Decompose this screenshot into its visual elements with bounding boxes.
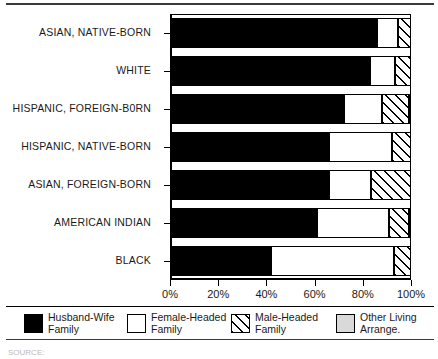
chart-legend: Husband-Wife FamilyFemale-Headed FamilyM… <box>6 306 434 340</box>
bar-segment <box>409 208 411 238</box>
y-axis-label: HISPANIC, NATIVE-BORN <box>0 140 160 152</box>
bar-segment <box>329 132 392 162</box>
bar-segment <box>317 208 389 238</box>
bar-segment <box>170 208 317 238</box>
bar-segment <box>170 246 271 276</box>
bar-segment <box>394 246 411 276</box>
bar-segment <box>389 208 409 238</box>
bar-segment <box>377 18 397 48</box>
top-rule <box>6 3 434 5</box>
bar-row <box>170 170 411 200</box>
bar-segment <box>271 246 394 276</box>
bar-segment <box>392 132 411 162</box>
y-axis-label: HISPANIC, FOREIGN-B0RN <box>0 102 160 114</box>
x-axis-tick-label: 40% <box>255 288 277 300</box>
bar-segment <box>170 132 329 162</box>
legend-item[interactable]: Husband-Wife Family <box>15 311 115 335</box>
bar-row <box>170 132 411 162</box>
bar-row <box>170 94 411 124</box>
bar-row <box>170 18 411 48</box>
legend-label: Female-Headed Family <box>151 311 226 335</box>
bar-segment <box>371 170 411 200</box>
legend-item[interactable]: Male-Headed Family <box>222 311 318 335</box>
x-axis-tick <box>218 280 219 286</box>
bar-row <box>170 208 411 238</box>
bar-segment <box>382 94 409 124</box>
x-axis-tick-label: 60% <box>304 288 326 300</box>
y-axis-label: ASIAN, FOREIGN-BORN <box>0 178 160 190</box>
bar-segment <box>170 18 377 48</box>
x-axis-tick <box>315 280 316 286</box>
x-axis-tick <box>170 280 171 286</box>
legend-swatch <box>127 314 146 333</box>
bar-segment <box>170 170 329 200</box>
x-axis-tick-label: 0% <box>162 288 178 300</box>
y-axis-label: BLACK <box>0 254 160 266</box>
y-axis-tick <box>164 147 170 148</box>
legend-label: Other Living Arrange. <box>360 311 417 335</box>
legend-label: Male-Headed Family <box>255 311 318 335</box>
legend-item[interactable]: Other Living Arrange. <box>327 311 417 335</box>
bar-segment <box>409 94 411 124</box>
bar-segment <box>395 56 411 86</box>
source-note: SOURCE: <box>8 348 44 359</box>
y-axis-tick <box>164 223 170 224</box>
chart-figure: ASIAN, NATIVE-BORNWHITEHISPANIC, FOREIGN… <box>0 0 438 359</box>
plot-area: ASIAN, NATIVE-BORNWHITEHISPANIC, FOREIGN… <box>170 14 411 280</box>
x-axis-tick-label: 80% <box>352 288 374 300</box>
bar-segment <box>344 94 383 124</box>
bar-segment <box>170 94 344 124</box>
y-axis-label: AMERICAN INDIAN <box>0 216 160 228</box>
bar-segment <box>370 56 395 86</box>
legend-swatch <box>24 314 43 333</box>
bar-segment <box>398 18 411 48</box>
y-axis-label: WHITE <box>0 64 160 76</box>
bar-segment <box>329 170 371 200</box>
x-axis-tick <box>363 280 364 286</box>
y-axis-tick <box>164 71 170 72</box>
y-axis-tick <box>164 185 170 186</box>
x-axis-tick-label: 100% <box>397 288 425 300</box>
legend-swatch <box>231 314 250 333</box>
x-axis-tick <box>411 280 412 286</box>
y-axis-tick <box>164 109 170 110</box>
bar-segment <box>170 56 370 86</box>
x-axis-tick <box>266 280 267 286</box>
legend-label: Husband-Wife Family <box>48 311 115 335</box>
y-axis-label: ASIAN, NATIVE-BORN <box>0 26 160 38</box>
bar-row <box>170 56 411 86</box>
legend-item[interactable]: Female-Headed Family <box>118 311 226 335</box>
legend-swatch <box>336 314 355 333</box>
x-axis-tick-label: 20% <box>207 288 229 300</box>
bar-row <box>170 246 411 276</box>
y-axis-tick <box>164 261 170 262</box>
y-axis-tick <box>164 33 170 34</box>
